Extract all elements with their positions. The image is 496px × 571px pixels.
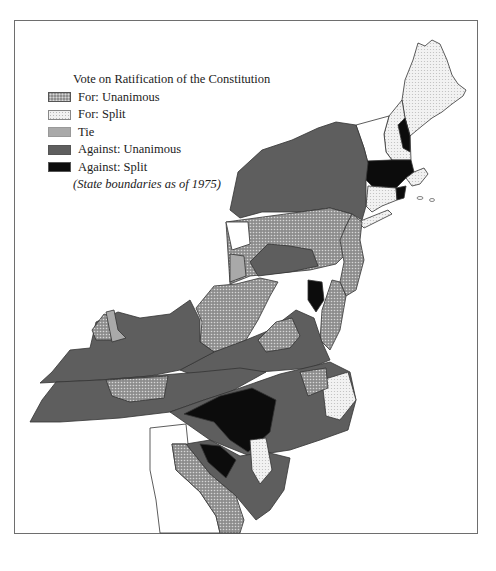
region-maryland-against-split (308, 280, 324, 312)
legend-label: For: Unanimous (78, 89, 160, 107)
island-marthas-vineyard (417, 197, 423, 200)
region-connecticut (366, 186, 397, 212)
swatch-against-split (48, 162, 71, 172)
legend-item-for-split: For: Split (48, 106, 270, 124)
legend-item-against-unanimous: Against: Unanimous (48, 141, 270, 159)
legend-label: Against: Split (78, 159, 147, 177)
swatch-for-split (48, 110, 71, 120)
swatch-for-unanimous (48, 92, 71, 102)
legend-item-tie: Tie (48, 124, 270, 142)
legend-note: (State boundaries as of 1975) (48, 176, 270, 194)
swatch-tie (48, 127, 71, 137)
region-delaware-eastern-shore (320, 280, 346, 350)
region-rhode-island (396, 186, 406, 200)
legend-label: For: Split (78, 106, 126, 124)
region-maine (402, 40, 466, 136)
legend-label: Against: Unanimous (78, 141, 181, 159)
legend-item-against-split: Against: Split (48, 159, 270, 177)
legend-item-for-unanimous: For: Unanimous (48, 89, 270, 107)
island-nantucket (430, 199, 435, 202)
legend-label: Tie (78, 124, 94, 142)
swatch-against-unanimous (48, 145, 71, 155)
region-massachusetts (366, 160, 414, 188)
legend: Vote on Ratification of the Constitution… (48, 71, 270, 194)
legend-title: Vote on Ratification of the Constitution (48, 71, 270, 89)
